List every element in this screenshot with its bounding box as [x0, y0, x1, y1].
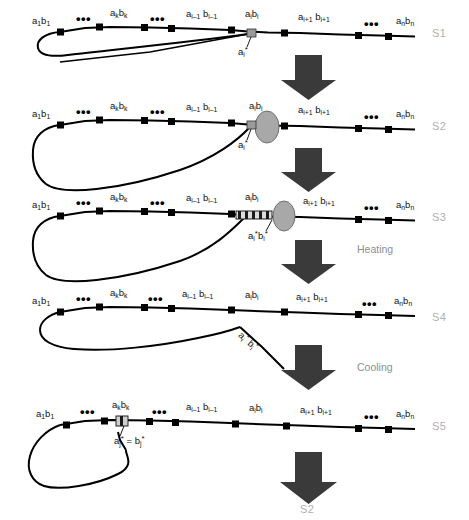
label-a1b1-s4: a1b1	[32, 296, 50, 306]
label-anbn-s5: anbn	[396, 409, 414, 419]
cropped-header-text	[100, 0, 430, 7]
annotation-ai-star-s1: ai*	[238, 47, 248, 57]
diagram-vector-layer	[0, 0, 469, 520]
label-aibi-s2: aibi	[249, 101, 263, 111]
ellipsis-3-s2: •••	[364, 110, 379, 123]
toehold-marker-s1	[247, 29, 256, 37]
process-arrow-2[interactable]	[281, 148, 336, 192]
row-s4-geometry	[40, 304, 415, 370]
ellipsis-3-s1: •••	[364, 17, 379, 30]
invading-strand-blob-s3	[273, 201, 295, 231]
label-a1b1-s3: a1b1	[32, 200, 50, 210]
label-ai-1bi-1-s4: ai–1 bi–1	[182, 289, 213, 299]
loop-tail-s2	[33, 125, 250, 190]
label-ai-1bi-1-s5: ai–1 bi–1	[186, 402, 217, 412]
label-ai+1bi+1-s1: ai+1 bi+1	[298, 12, 330, 22]
row-s1-geometry	[38, 24, 415, 63]
stage-label-s4: S4	[432, 311, 446, 323]
node-squares-s3	[57, 208, 392, 225]
ellipsis-1-s2: •••	[76, 105, 91, 118]
ellipsis-2-s1: •••	[150, 12, 165, 25]
ellipsis-1-s1: •••	[76, 12, 91, 25]
loop-tail-s3	[33, 216, 244, 281]
annotation-ai-star-s2: ai*	[238, 140, 248, 150]
label-anbn-s3: anbn	[396, 200, 414, 210]
label-anbn-s4: anbn	[394, 296, 412, 306]
annotation-duplex-s3: ai*bi*	[248, 231, 268, 241]
label-a1b1-s2: a1b1	[32, 109, 50, 119]
label-aibi-s4: aibi	[245, 290, 259, 300]
stage-label-s5: S5	[432, 420, 446, 432]
ellipsis-2-s3: •••	[150, 196, 165, 209]
label-ai-1bi-1-s3: ai–1 bi–1	[186, 193, 217, 203]
loop-tail-s4	[40, 312, 240, 350]
label-aibi-s5: aibi	[249, 403, 263, 413]
label-a1b1-s1: a1b1	[32, 16, 50, 26]
row-s2-geometry	[33, 111, 415, 190]
label-a1b1-s5: a1b1	[36, 409, 54, 419]
label-akbk-s1: akbk	[110, 8, 127, 18]
process-arrow-1[interactable]	[281, 55, 336, 100]
label-ai+1bi+1-s2: ai+1 bi+1	[298, 105, 330, 115]
label-aibi-s1: aibi	[245, 9, 259, 19]
label-akbk-s2: akbk	[110, 101, 127, 111]
ellipsis-3-s3: •••	[364, 201, 379, 214]
stage-label-final-s2: S2	[300, 503, 314, 515]
invading-strand-blob-s2	[255, 111, 279, 143]
ellipsis-2-s2: •••	[150, 105, 165, 118]
ellipsis-1-s4: •••	[76, 292, 91, 305]
label-anbn-s2: anbn	[396, 109, 414, 119]
row-s5-geometry	[29, 416, 415, 488]
row-s3-geometry	[33, 201, 415, 281]
label-akbk-s4: akbk	[110, 288, 127, 298]
process-label-heating: Heating	[357, 243, 393, 255]
label-ai-1bi-1-s1: ai–1 bi–1	[186, 9, 217, 19]
ellipsis-2-s4: •••	[148, 292, 163, 305]
label-aibi-s3: aibi	[245, 192, 259, 202]
label-ai+1bi+1-s5: ai+1 bi+1	[300, 405, 332, 415]
process-arrow-3-heating[interactable]	[281, 240, 336, 284]
label-ai+1bi+1-s4: ai+1 bi+1	[296, 292, 328, 302]
ellipsis-3-s5: •••	[364, 410, 379, 423]
ellipsis-2-s5: •••	[152, 405, 167, 418]
stage-label-s3: S3	[432, 211, 446, 223]
ellipsis-1-s5: •••	[80, 405, 95, 418]
toehold-marker-s2	[247, 121, 256, 129]
process-arrow-4-cooling[interactable]	[281, 345, 336, 390]
stage-label-s2: S2	[432, 120, 446, 132]
figure-canvas: a1b1 ••• akbk ••• ai–1 bi–1 aibi ai+1 bi…	[0, 0, 469, 520]
label-akbk-s3: akbk	[110, 192, 127, 202]
process-label-cooling: Cooling	[357, 361, 393, 373]
duplex-marker-s5	[116, 416, 128, 426]
ellipsis-3-s4: •••	[362, 297, 377, 310]
label-anbn-s1: anbn	[396, 16, 414, 26]
node-squares-s4	[57, 304, 392, 320]
label-ai+1bi+1-s3: ai+1 bi+1	[303, 196, 335, 206]
node-squares-s2	[57, 117, 392, 134]
label-ai-1bi-1-s2: ai–1 bi–1	[186, 102, 217, 112]
annotation-equality-s5: aj* = bj*	[114, 436, 145, 446]
ellipsis-1-s3: •••	[76, 196, 91, 209]
label-akbk-s5: akbk	[112, 400, 129, 410]
duplex-region-s3	[236, 211, 272, 219]
process-arrow-5[interactable]	[280, 452, 337, 504]
stage-label-s1: S1	[432, 27, 446, 39]
